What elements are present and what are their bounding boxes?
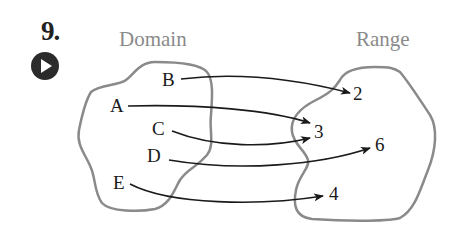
domain-element-c: C xyxy=(152,119,165,139)
arrow-c-to-3 xyxy=(172,131,310,145)
domain-element-a: A xyxy=(110,96,124,116)
problem-figure: 9. Domain Range B A C D E 2 3 6 4 xyxy=(0,0,457,228)
range-element-6: 6 xyxy=(375,135,385,155)
mapping-diagram xyxy=(0,0,457,228)
domain-element-e: E xyxy=(113,173,125,193)
domain-element-d: D xyxy=(147,146,161,166)
arrow-d-to-6 xyxy=(169,148,370,166)
arrow-e-to-4 xyxy=(130,184,323,202)
domain-set-outline xyxy=(78,62,212,211)
range-element-3: 3 xyxy=(314,122,324,142)
domain-element-b: B xyxy=(162,70,175,90)
arrow-b-to-2 xyxy=(181,76,350,93)
range-element-4: 4 xyxy=(329,184,339,204)
range-element-2: 2 xyxy=(353,84,363,104)
